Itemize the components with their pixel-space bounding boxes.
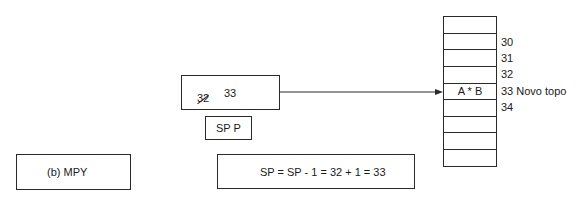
- stack-cell: [443, 34, 497, 51]
- stack-cell: [443, 16, 497, 34]
- address-label-30: 30: [501, 37, 513, 48]
- address-label-34: 34: [501, 102, 513, 113]
- stack-cell: [443, 67, 497, 84]
- stack-cell-top: A * B: [443, 84, 497, 101]
- address-label-33-new-top: 33 Novo topo: [501, 86, 566, 97]
- stack-cell: [443, 50, 497, 67]
- arrowhead-icon: [435, 89, 443, 95]
- stack-memory: A * B: [443, 16, 497, 167]
- stack-cell: [443, 117, 497, 134]
- stack-cell: [443, 150, 497, 167]
- address-label-32: 32: [501, 69, 513, 80]
- address-label-31: 31: [501, 53, 513, 64]
- stack-cell: [443, 100, 497, 117]
- stack-cell: [443, 133, 497, 150]
